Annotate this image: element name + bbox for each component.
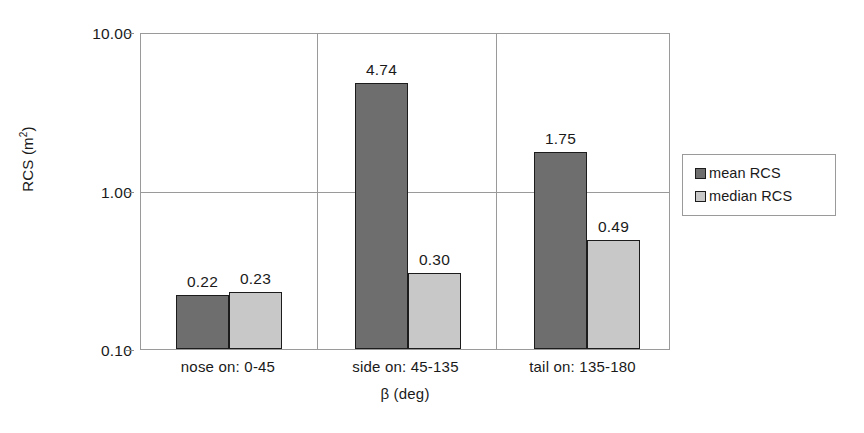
x-category-label-nose-on: nose on: 0-45	[140, 358, 316, 375]
legend-entry-mean-rcs[interactable]: mean RCS	[695, 162, 835, 185]
legend-label-median-rcs: median RCS	[709, 189, 792, 204]
y-axis-title-main: RCS (m	[19, 137, 36, 192]
x-category-label-side-on: side on: 45-135	[316, 358, 495, 375]
bar-mean-nose-on[interactable]	[176, 295, 229, 349]
y-axis-title-tail: )	[19, 126, 36, 131]
bar-median-tail-on[interactable]	[587, 240, 640, 349]
x-axis-title: β (deg)	[140, 385, 670, 402]
bar-median-side-on[interactable]	[408, 273, 461, 349]
y-tick-label-1: 1.00	[60, 185, 132, 201]
legend: mean RCS median RCS	[682, 154, 836, 216]
bar-value-mean-side-on: 4.74	[347, 62, 416, 78]
gridline-vertical-divider-1	[317, 34, 318, 349]
chart-figure: RCS (m2) 10.00 1.00 0.10 0.22 0.23	[0, 0, 864, 433]
bar-median-nose-on[interactable]	[229, 292, 282, 349]
bar-value-median-nose-on: 0.23	[221, 271, 290, 287]
bar-mean-side-on[interactable]	[355, 83, 408, 349]
y-tick-label-10: 10.00	[60, 26, 132, 42]
gridline-vertical-divider-2	[496, 34, 497, 349]
y-axis-title: RCS (m2)	[18, 99, 36, 219]
y-tick-dash-10	[126, 33, 134, 34]
y-tick-label-0-1: 0.10	[60, 343, 132, 359]
legend-entry-median-rcs[interactable]: median RCS	[695, 185, 835, 208]
legend-swatch-mean-icon	[695, 168, 706, 179]
bar-value-median-side-on: 0.30	[400, 252, 469, 268]
bar-value-median-tail-on: 0.49	[579, 219, 648, 235]
legend-swatch-median-icon	[695, 191, 706, 202]
y-axis-ticks: 10.00 1.00 0.10	[52, 0, 132, 433]
y-tick-dash-0-1	[126, 350, 134, 351]
legend-label-mean-rcs: mean RCS	[709, 166, 781, 181]
x-category-label-tail-on: tail on: 135-180	[495, 358, 670, 375]
bar-value-mean-tail-on: 1.75	[526, 131, 595, 147]
y-axis-title-superscript: 2	[18, 131, 29, 137]
bar-mean-tail-on[interactable]	[534, 152, 587, 349]
y-tick-dash-1	[126, 192, 134, 193]
plot-area: 0.22 0.23 4.74 0.30 1.75 0.49	[140, 33, 670, 350]
